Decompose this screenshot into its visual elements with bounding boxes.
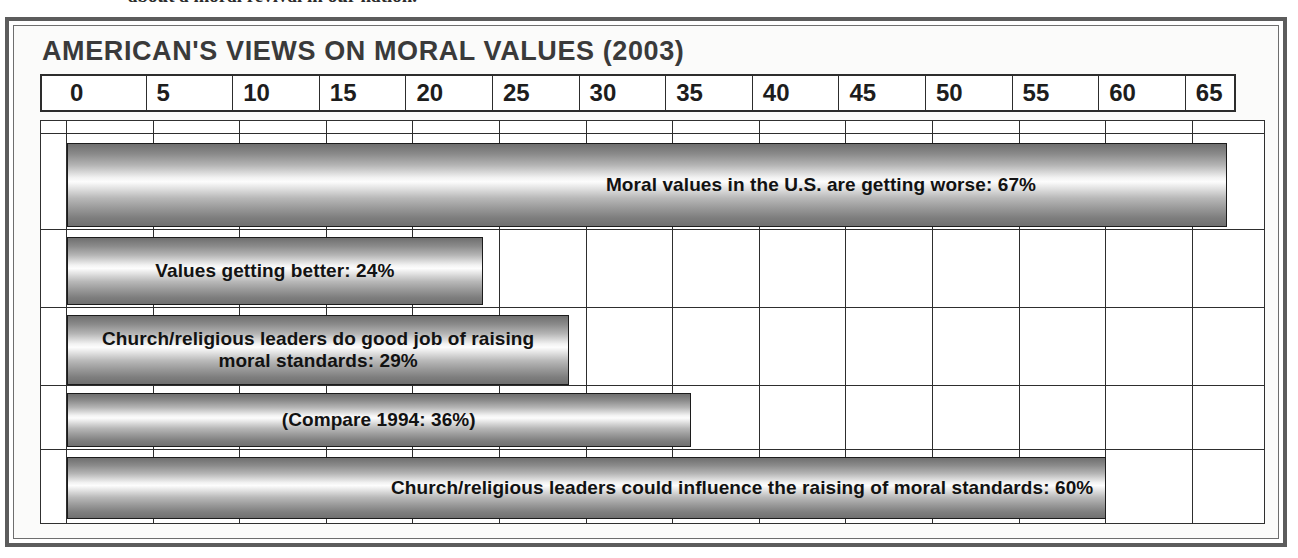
axis-separator xyxy=(405,76,406,110)
bar-5: Church/religious leaders could influence… xyxy=(67,457,1106,519)
x-axis-tick-10: 10 xyxy=(238,76,270,110)
row-separator xyxy=(41,307,1264,308)
bar-label-2: Values getting better: 24% xyxy=(145,260,404,282)
x-axis-tick-30: 30 xyxy=(585,76,617,110)
axis-separator xyxy=(1185,76,1186,110)
x-axis-tick-50: 50 xyxy=(931,76,963,110)
bar-label-3: Church/religious leaders do good job of … xyxy=(92,328,544,373)
x-axis-tick-45: 45 xyxy=(844,76,876,110)
chart-frame-inner: AMERICAN'S VIEWS ON MORAL VALUES (2003) … xyxy=(13,25,1279,539)
clipped-caption-text: about a moral revival in our nation. xyxy=(128,0,417,7)
bar-label-1: Moral values in the U.S. are getting wor… xyxy=(596,174,1046,196)
clipped-caption-strip: about a moral revival in our nation. xyxy=(0,0,1298,14)
x-axis-tick-20: 20 xyxy=(411,76,443,110)
x-axis-scale: 05101520253035404550556065 xyxy=(40,74,1236,112)
bar-label-4: (Compare 1994: 36%) xyxy=(272,409,486,431)
axis-separator xyxy=(1098,76,1099,110)
bar-4: (Compare 1994: 36%) xyxy=(67,393,691,447)
axis-separator xyxy=(1012,76,1013,110)
x-axis-tick-60: 60 xyxy=(1104,76,1136,110)
row-separator xyxy=(41,385,1264,386)
axis-separator xyxy=(579,76,580,110)
axis-separator xyxy=(925,76,926,110)
x-axis-tick-5: 5 xyxy=(152,76,170,110)
axis-separator xyxy=(146,76,147,110)
row-separator xyxy=(41,449,1264,450)
page-title: AMERICAN'S VIEWS ON MORAL VALUES (2003) xyxy=(42,36,684,67)
x-axis-tick-65: 65 xyxy=(1191,76,1223,110)
row-separator xyxy=(41,229,1264,230)
x-axis-tick-15: 15 xyxy=(325,76,357,110)
x-axis-tick-35: 35 xyxy=(671,76,703,110)
x-axis-tick-25: 25 xyxy=(498,76,530,110)
axis-separator xyxy=(752,76,753,110)
plot-area: Moral values in the U.S. are getting wor… xyxy=(40,120,1265,524)
x-axis-tick-40: 40 xyxy=(758,76,790,110)
bar-3: Church/religious leaders do good job of … xyxy=(67,315,569,385)
chart-frame-outer: AMERICAN'S VIEWS ON MORAL VALUES (2003) … xyxy=(5,17,1287,547)
bar-1: Moral values in the U.S. are getting wor… xyxy=(67,143,1227,227)
axis-separator xyxy=(665,76,666,110)
x-axis-tick-55: 55 xyxy=(1018,76,1050,110)
x-axis-tick-0: 0 xyxy=(65,76,83,110)
bar-2: Values getting better: 24% xyxy=(67,237,483,305)
axis-separator xyxy=(319,76,320,110)
axis-separator xyxy=(492,76,493,110)
axis-separator xyxy=(838,76,839,110)
row-separator xyxy=(41,133,1264,134)
axis-separator xyxy=(232,76,233,110)
bar-label-5: Church/religious leaders could influence… xyxy=(381,477,1103,499)
